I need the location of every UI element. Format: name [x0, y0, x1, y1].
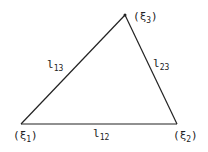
vertex-label-xi3: (ξ3) [133, 10, 158, 25]
triangle-diagram: (ξ1) (ξ2) (ξ3) l12 l13 l23 [0, 0, 208, 152]
diagram-svg: (ξ1) (ξ2) (ξ3) l12 l13 l23 [0, 0, 208, 152]
edge-l13 [21, 15, 125, 124]
vertex-label-xi2: (ξ2) [173, 129, 198, 144]
edge-label-l23: l23 [153, 57, 169, 72]
vertex-xi3-dot [124, 14, 127, 17]
edge-label-l12: l12 [93, 127, 109, 142]
edge-label-l13: l13 [47, 58, 63, 73]
vertex-label-xi1: (ξ1) [13, 129, 38, 144]
